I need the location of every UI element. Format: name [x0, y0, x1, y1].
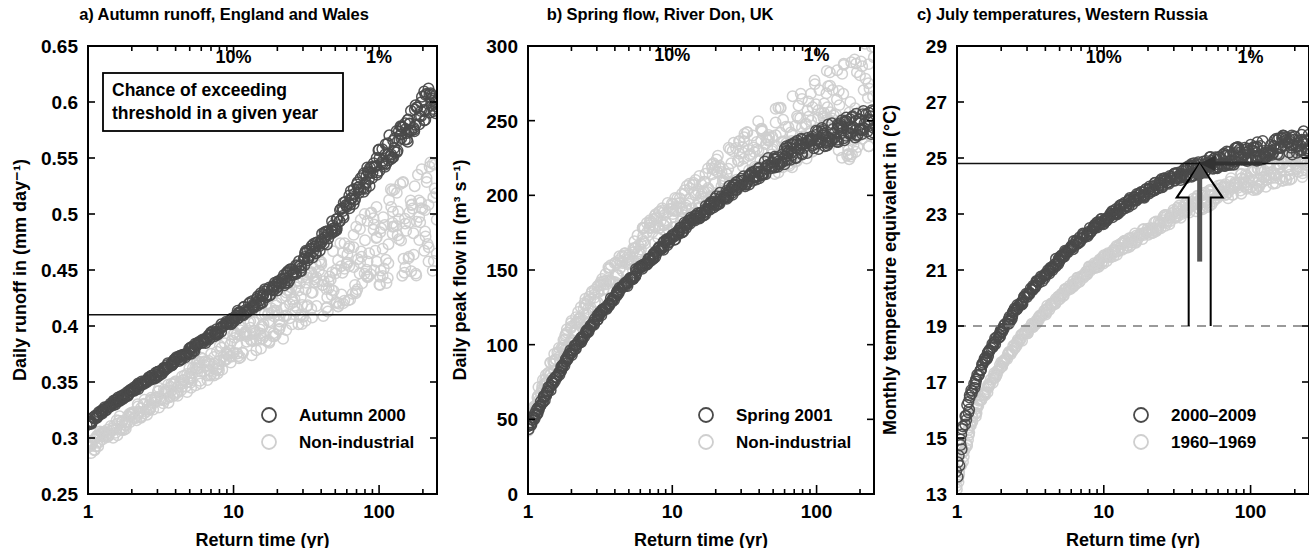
legend-marker: [699, 435, 713, 449]
panel-a: a) Autumn runoff, England and Wales 0.25…: [0, 0, 448, 548]
annotation-10-percent: 10%: [1086, 47, 1122, 67]
y-tick-label: 19: [926, 316, 947, 337]
x-tick-label: 10: [662, 501, 683, 522]
y-tick-label: 200: [486, 185, 518, 206]
panel-a-plot: 0.250.30.350.40.450.50.550.60.65110100Re…: [0, 0, 448, 548]
panel-c: c) July temperatures, Western Russia 131…: [870, 0, 1309, 548]
y-tick-label: 0.5: [52, 204, 79, 225]
y-tick-label: 50: [497, 409, 518, 430]
y-axis-title: Daily runoff in (mm day⁻¹): [10, 159, 30, 381]
x-tick-label: 10: [223, 501, 244, 522]
y-axis-title: Daily peak flow in (m³ s⁻¹): [450, 159, 470, 380]
y-tick-label: 0.65: [41, 36, 78, 57]
y-tick-label: 0.45: [41, 260, 78, 281]
y-tick-label: 13: [926, 484, 947, 505]
y-tick-label: 23: [926, 204, 947, 225]
annotation-1-percent: 1%: [804, 45, 830, 65]
y-axis-title: Monthly temperature equivalent in (°C): [880, 105, 900, 435]
axes-box: [957, 46, 1309, 494]
figure-root: a) Autumn runoff, England and Wales 0.25…: [0, 0, 1309, 548]
y-tick-label: 0.35: [41, 372, 78, 393]
callout-line-1: Chance of exceeding: [112, 80, 287, 100]
legend-label: Autumn 2000: [299, 406, 406, 425]
y-tick-label: 0.55: [41, 148, 78, 169]
y-tick-label: 0: [507, 484, 518, 505]
panel-b-plot: 050100150200250300110100Return time (yr)…: [440, 0, 880, 548]
legend-label: 2000–2009: [1171, 406, 1256, 425]
y-tick-label: 300: [486, 36, 518, 57]
y-tick-label: 250: [486, 111, 518, 132]
x-tick-label: 100: [1235, 501, 1267, 522]
x-axis-title: Return time (yr): [634, 530, 768, 548]
x-tick-label: 1: [83, 501, 94, 522]
y-tick-label: 25: [926, 148, 948, 169]
y-tick-label: 0.4: [52, 316, 79, 337]
y-tick-label: 0.6: [52, 92, 78, 113]
legend-marker: [1134, 435, 1148, 449]
y-tick-label: 21: [926, 260, 948, 281]
x-tick-label: 100: [363, 501, 395, 522]
panel-b: b) Spring flow, River Don, UK 0501001502…: [440, 0, 880, 548]
series-2000-2009: [951, 126, 1309, 482]
x-tick-label: 1: [952, 501, 963, 522]
y-tick-label: 100: [486, 335, 518, 356]
y-tick-label: 0.3: [52, 428, 78, 449]
series-spring-2001: [523, 105, 879, 435]
y-tick-label: 150: [486, 260, 518, 281]
y-tick-label: 29: [926, 36, 947, 57]
legend-label: 1960–1969: [1171, 433, 1256, 452]
legend-marker: [262, 435, 276, 449]
series-non-industrial: [521, 39, 880, 436]
legend-marker: [1134, 408, 1148, 422]
x-axis-title: Return time (yr): [1066, 530, 1200, 548]
legend-marker: [699, 408, 713, 422]
x-axis-title: Return time (yr): [195, 530, 329, 548]
legend-marker: [262, 408, 276, 422]
x-tick-label: 100: [801, 501, 833, 522]
legend-label: Non-industrial: [299, 433, 414, 452]
annotation-1-percent: 1%: [1238, 47, 1264, 67]
x-tick-label: 10: [1093, 501, 1114, 522]
y-tick-label: 17: [926, 372, 947, 393]
annotation-10-percent: 10%: [654, 45, 690, 65]
legend-label: Non-industrial: [736, 433, 851, 452]
x-tick-label: 1: [523, 501, 534, 522]
y-tick-label: 27: [926, 92, 947, 113]
annotation-10-percent: 10%: [216, 47, 252, 67]
legend-label: Spring 2001: [736, 406, 832, 425]
y-tick-label: 15: [926, 428, 948, 449]
callout-line-2: threshold in a given year: [112, 103, 318, 123]
y-tick-label: 0.25: [41, 484, 78, 505]
panel-c-plot: 131517192123252729110100Return time (yr)…: [870, 0, 1309, 548]
annotation-1-percent: 1%: [366, 47, 392, 67]
